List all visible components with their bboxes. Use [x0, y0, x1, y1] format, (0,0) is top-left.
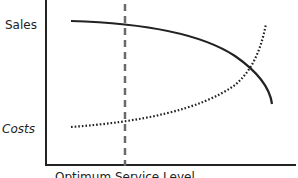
sales-curve — [71, 21, 272, 104]
x-axis-label: Optimum Service Level — [55, 170, 195, 178]
costs-label: Costs — [2, 122, 35, 136]
chart-area: Sales Costs Optimum Service Level — [0, 0, 298, 178]
sales-label: Sales — [5, 18, 37, 32]
costs-curve — [71, 24, 266, 127]
chart-svg — [0, 0, 298, 178]
